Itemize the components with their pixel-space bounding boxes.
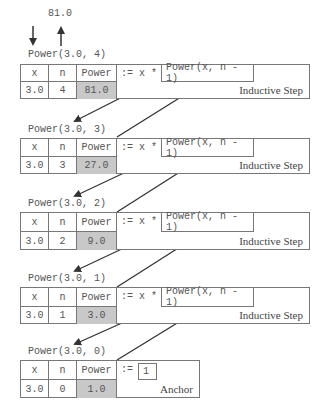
value-x: 3.0 (21, 82, 49, 99)
recursive-call-expression: Power(x, n - 1) (161, 138, 254, 157)
activation-frame-n4: x n Power 3.0 4 81.0 := x * Power(x, n -… (20, 64, 310, 99)
step-kind-label: Inductive Step (239, 309, 303, 321)
value-power: 9.0 (77, 232, 117, 250)
activation-frame-n0-anchor: x n Power 3.0 0 1.0 := 1 Anchor (20, 360, 200, 398)
header-n: n (49, 139, 77, 157)
header-n: n (49, 288, 77, 307)
anchor-value-expression: 1 (138, 363, 157, 380)
assign-operator: := x * (121, 68, 157, 79)
value-power: 3.0 (77, 307, 117, 324)
step-kind-label: Inductive Step (239, 159, 303, 171)
value-x: 3.0 (21, 232, 49, 250)
step-kind-label: Inductive Step (239, 235, 303, 247)
header-power: Power (77, 65, 117, 82)
header-power: Power (77, 213, 117, 232)
value-x: 3.0 (21, 380, 49, 398)
value-x: 3.0 (21, 157, 49, 174)
value-power: 1.0 (77, 380, 117, 398)
activation-frame-n1: x n Power 3.0 1 3.0 := x * Power(x, n - … (20, 287, 310, 324)
step-kind-label: Inductive Step (239, 84, 303, 96)
value-n: 4 (49, 82, 77, 99)
call-label: Power(3.0, 1) (28, 273, 106, 284)
call-label: Power(3.0, 4) (28, 49, 106, 60)
header-power: Power (77, 288, 117, 307)
call-label: Power(3.0, 0) (28, 346, 106, 357)
value-power: 81.0 (77, 82, 117, 99)
call-label: Power(3.0, 3) (28, 124, 106, 135)
recursive-call-expression: Power(x, n - 1) (161, 64, 254, 82)
activation-frame-n2: x n Power 3.0 2 9.0 := x * Power(x, n - … (20, 212, 310, 250)
value-n: 2 (49, 232, 77, 250)
header-n: n (49, 361, 77, 380)
assign-operator: := x * (121, 216, 157, 227)
step-kind-label: Anchor (160, 383, 193, 395)
activation-frame-n3: x n Power 3.0 3 27.0 := x * Power(x, n -… (20, 138, 310, 174)
assign-operator: := x * (121, 142, 157, 153)
header-power: Power (77, 361, 117, 380)
value-n: 1 (49, 307, 77, 324)
recursive-call-expression: Power(x, n - 1) (161, 212, 254, 232)
header-n: n (49, 65, 77, 82)
value-x: 3.0 (21, 307, 49, 324)
recursive-call-expression: Power(x, n - 1) (161, 287, 254, 307)
header-x: x (21, 361, 49, 380)
header-n: n (49, 213, 77, 232)
header-x: x (21, 139, 49, 157)
value-n: 3 (49, 157, 77, 174)
header-x: x (21, 213, 49, 232)
header-x: x (21, 288, 49, 307)
value-power: 27.0 (77, 157, 117, 174)
call-label: Power(3.0, 2) (28, 198, 106, 209)
assign-operator: := (121, 364, 133, 375)
value-n: 0 (49, 380, 77, 398)
assign-operator: := x * (121, 291, 157, 302)
header-x: x (21, 65, 49, 82)
header-power: Power (77, 139, 117, 157)
